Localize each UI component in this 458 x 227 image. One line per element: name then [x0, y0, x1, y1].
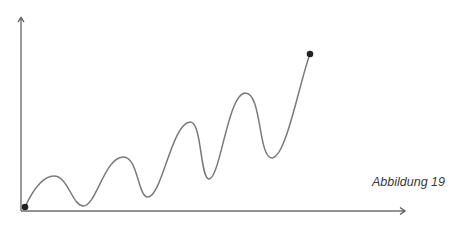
start-point-dot	[22, 204, 29, 211]
diagram-figure	[0, 0, 458, 227]
curve-line	[25, 54, 310, 207]
y-axis	[18, 18, 24, 212]
x-axis	[21, 208, 405, 215]
figure-caption: Abbildung 19	[372, 175, 445, 189]
end-point-dot	[307, 51, 314, 58]
